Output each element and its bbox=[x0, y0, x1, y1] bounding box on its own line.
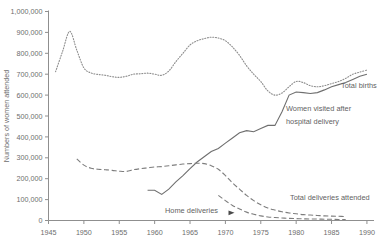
label-women-visited-line1: Women visited after bbox=[286, 104, 352, 113]
x-tick-label: 1970 bbox=[217, 228, 233, 237]
x-tick-label: 1980 bbox=[288, 228, 304, 237]
line-chart: 0100,000200,000300,000400,000500,000600,… bbox=[0, 0, 386, 248]
y-axis-title: Numbers of women attended bbox=[2, 70, 11, 162]
label-total-births: Total births bbox=[341, 81, 377, 90]
x-tick-label: 1965 bbox=[182, 228, 198, 237]
x-tick-label: 1975 bbox=[253, 228, 269, 237]
chart-container: 0100,000200,000300,000400,000500,000600,… bbox=[0, 0, 386, 248]
y-tick-label: 800,000 bbox=[17, 49, 43, 58]
y-tick-label: 400,000 bbox=[17, 133, 43, 142]
y-axis-tick-group: 0100,000200,000300,000400,000500,000600,… bbox=[11, 7, 49, 225]
series-women-visited bbox=[148, 74, 367, 194]
y-tick-label: 0 bbox=[39, 216, 43, 225]
y-tick-label: 300,000 bbox=[17, 153, 43, 162]
y-tick-label: 600,000 bbox=[17, 91, 43, 100]
y-tick-label: 500,000 bbox=[17, 112, 43, 121]
x-tick-label: 1990 bbox=[359, 228, 375, 237]
x-tick-label: 1985 bbox=[324, 228, 340, 237]
home-deliveries-pointer-icon bbox=[229, 211, 235, 216]
x-tick-label: 1955 bbox=[111, 228, 127, 237]
annotation-group: Total birthsWomen visited afterhospital … bbox=[165, 81, 377, 215]
label-total-deliveries: Total deliveries attended bbox=[290, 193, 370, 202]
x-tick-label: 1960 bbox=[147, 228, 163, 237]
y-tick-label: 200,000 bbox=[17, 174, 43, 183]
y-tick-label: 900,000 bbox=[17, 28, 43, 37]
x-axis-tick-group: 1945195019551960196519701975198019851990 bbox=[41, 221, 375, 237]
x-tick-label: 1950 bbox=[76, 228, 92, 237]
y-tick-label: 1,000,000 bbox=[11, 7, 43, 16]
label-home-deliveries: Home deliveries bbox=[165, 206, 218, 215]
x-tick-label: 1945 bbox=[41, 228, 57, 237]
series-total-births bbox=[56, 31, 367, 95]
label-women-visited-line2: hospital delivery bbox=[286, 117, 339, 126]
y-tick-label: 100,000 bbox=[17, 195, 43, 204]
y-tick-label: 700,000 bbox=[17, 70, 43, 79]
